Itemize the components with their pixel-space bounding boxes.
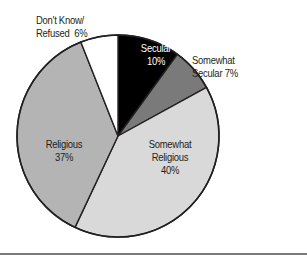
label-somewhat-secular-line2: Secular 7% bbox=[192, 67, 252, 80]
label-somewhat-religious-line1: Somewhat bbox=[140, 138, 200, 151]
label-somewhat-religious: Somewhat Religious 40% bbox=[140, 138, 200, 177]
label-secular-value: 10% bbox=[130, 55, 182, 68]
label-somewhat-religious-line2: Religious bbox=[140, 151, 200, 164]
label-religious: Religious 37% bbox=[38, 138, 90, 164]
label-dont-know-line2: Refused 6% bbox=[36, 27, 96, 40]
label-secular: Secular 10% bbox=[130, 42, 182, 68]
label-somewhat-religious-value: 40% bbox=[140, 164, 200, 177]
label-secular-name: Secular bbox=[130, 42, 182, 55]
label-dont-know-line1: Don't Know/ bbox=[36, 14, 96, 27]
label-somewhat-secular: Somewhat Secular 7% bbox=[192, 54, 252, 80]
label-somewhat-secular-line1: Somewhat bbox=[192, 54, 252, 67]
baseline-rule bbox=[0, 253, 307, 255]
label-religious-name: Religious bbox=[38, 138, 90, 151]
label-religious-value: 37% bbox=[38, 151, 90, 164]
label-dont-know: Don't Know/ Refused 6% bbox=[36, 14, 96, 40]
